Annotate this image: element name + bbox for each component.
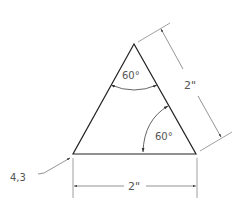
triangle-drawing: 60° 60° 2" 2" 4,3 (0, 0, 245, 210)
triangle-outline (73, 44, 196, 154)
origin-leader (38, 158, 70, 174)
side-dimension-line-lower (198, 96, 221, 137)
base-dimension-label: 2" (128, 180, 140, 193)
right-angle-arc (143, 106, 168, 152)
side-dimension-label: 2" (184, 79, 196, 92)
top-angle-arc (111, 85, 157, 90)
side-extension-bottom (200, 132, 232, 151)
top-angle-label: 60° (122, 70, 140, 81)
right-angle-label: 60° (155, 131, 173, 142)
side-extension-top (138, 23, 170, 42)
origin-coordinate-label: 4,3 (10, 172, 26, 183)
side-dimension-line-upper (161, 29, 183, 69)
